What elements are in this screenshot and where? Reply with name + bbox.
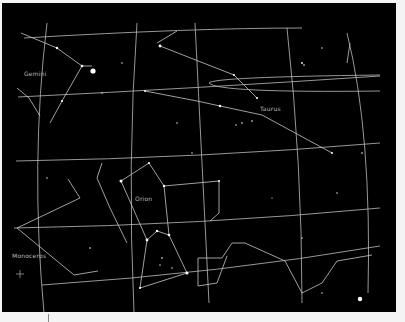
- constellation-line-taurus-2: [145, 91, 332, 153]
- sky-chart-canvas[interactable]: [2, 3, 396, 312]
- star[interactable]: [144, 90, 146, 92]
- constellation-line-orion-4: [164, 186, 169, 235]
- star[interactable]: [81, 65, 84, 68]
- star[interactable]: [168, 234, 171, 237]
- constellation-line-taurus-1: [160, 46, 257, 98]
- star[interactable]: [101, 92, 102, 93]
- star[interactable]: [235, 124, 236, 125]
- grid-line-ra-3: [195, 23, 209, 303]
- star[interactable]: [176, 122, 177, 123]
- star[interactable]: [301, 62, 303, 64]
- constellation-line-orion-3: [140, 240, 187, 288]
- label-gemini[interactable]: Gemini: [24, 70, 47, 77]
- star[interactable]: [256, 97, 258, 99]
- constellation-line-gemini-2: [50, 66, 82, 123]
- star[interactable]: [171, 267, 172, 268]
- star[interactable]: [46, 177, 47, 178]
- star[interactable]: [218, 180, 220, 182]
- star[interactable]: [233, 74, 235, 76]
- constellation-line-gemini: [21, 33, 92, 66]
- star[interactable]: [159, 264, 160, 265]
- star[interactable]: [89, 247, 91, 249]
- window-frame: Gemini Taurus Orion Monoceros: [0, 0, 405, 322]
- star[interactable]: [251, 120, 253, 122]
- star[interactable]: [186, 272, 189, 275]
- sky-chart-view[interactable]: Gemini Taurus Orion Monoceros: [2, 3, 396, 312]
- constellation-lines: [17, 31, 372, 293]
- label-taurus[interactable]: Taurus: [260, 105, 281, 112]
- constellation-line-taurus-3: [157, 31, 177, 43]
- star[interactable]: [163, 185, 165, 187]
- grid-line-ra-4: [287, 28, 302, 303]
- grid-line-ra-1: [38, 23, 47, 312]
- grid-line-ra-2: [131, 23, 137, 312]
- star[interactable]: [191, 152, 192, 153]
- star[interactable]: [358, 297, 362, 301]
- coordinate-grid: [14, 23, 380, 312]
- star[interactable]: [331, 152, 333, 154]
- star[interactable]: [148, 162, 150, 164]
- grid-line-dec-2: [18, 76, 380, 97]
- star[interactable]: [56, 47, 58, 49]
- star[interactable]: [61, 100, 63, 102]
- constellation-line-orion-1: [121, 163, 219, 186]
- footer-tick: [48, 314, 49, 322]
- star[interactable]: [361, 152, 363, 154]
- star[interactable]: [90, 68, 95, 73]
- star[interactable]: [303, 64, 305, 66]
- constellation-line-orion-6: [97, 163, 127, 243]
- star[interactable]: [219, 105, 221, 107]
- label-orion[interactable]: Orion: [135, 195, 152, 202]
- grid-line-ra-5: [347, 33, 369, 293]
- stars-layer: [46, 45, 363, 302]
- star[interactable]: [146, 239, 149, 242]
- constellation-line-lepus: [347, 43, 350, 63]
- star[interactable]: [321, 292, 322, 293]
- crosshair-icon: [16, 270, 24, 278]
- star[interactable]: [336, 192, 337, 193]
- star[interactable]: [301, 237, 302, 238]
- star[interactable]: [241, 122, 243, 124]
- grid-line-dec-3: [16, 143, 380, 161]
- grid-line-dec-4: [14, 208, 380, 228]
- star[interactable]: [271, 197, 272, 198]
- star[interactable]: [156, 230, 158, 232]
- star[interactable]: [159, 45, 162, 48]
- star[interactable]: [120, 180, 123, 183]
- label-monoceros[interactable]: Monoceros: [12, 252, 46, 259]
- grid-line-dec-5: [42, 246, 380, 285]
- grid-line-dec-1: [24, 28, 302, 38]
- star[interactable]: [139, 287, 141, 289]
- constellation-line-orion-5: [210, 181, 219, 221]
- star[interactable]: [121, 62, 122, 63]
- star[interactable]: [321, 47, 322, 48]
- star[interactable]: [161, 257, 163, 259]
- constellation-line-gemini-3: [17, 88, 40, 116]
